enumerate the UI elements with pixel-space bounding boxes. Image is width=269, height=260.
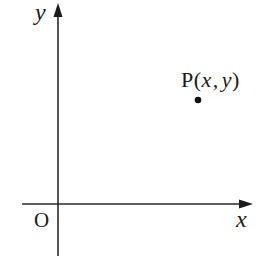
point-y-coord: y: [222, 67, 232, 92]
coordinate-plane-diagram: y x O P(x,y): [0, 0, 269, 260]
point-x-coord: x: [202, 67, 212, 92]
point-close-paren: ): [232, 67, 240, 92]
origin-label: O: [34, 210, 49, 231]
y-axis-arrow-icon: [54, 3, 63, 17]
point-comma: ,: [213, 67, 219, 92]
point-p-label: P(x,y): [181, 69, 240, 91]
y-axis-label: y: [35, 0, 46, 24]
point-name: P: [181, 67, 194, 92]
point-p-dot-icon: [195, 97, 202, 104]
point-open-paren: (: [194, 67, 202, 92]
x-axis-label: x: [236, 207, 247, 231]
